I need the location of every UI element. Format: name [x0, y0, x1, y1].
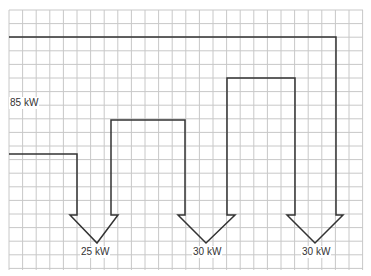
flow-diagram [0, 0, 371, 276]
grid-background [9, 10, 363, 270]
output-label-1: 25 kW [80, 246, 110, 258]
flow-band-outer [9, 37, 343, 243]
output-label-3: 30 kW [301, 246, 331, 258]
input-label: 85 kW [9, 97, 39, 109]
flow-outline [9, 37, 343, 243]
output-label-2: 30 kW [192, 246, 222, 258]
